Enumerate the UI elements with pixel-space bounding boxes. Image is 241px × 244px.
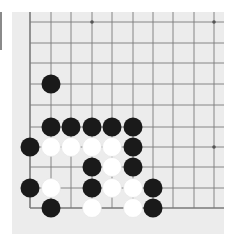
star-point xyxy=(90,20,94,24)
white-stone[interactable] xyxy=(42,138,61,157)
white-stone[interactable] xyxy=(124,199,143,218)
white-stone[interactable] xyxy=(83,138,102,157)
star-point xyxy=(212,145,216,149)
black-stone[interactable] xyxy=(42,75,61,94)
black-stone[interactable] xyxy=(42,199,61,218)
black-stone[interactable] xyxy=(103,118,122,137)
black-stone[interactable] xyxy=(83,118,102,137)
black-stone[interactable] xyxy=(124,118,143,137)
white-stone[interactable] xyxy=(42,179,61,198)
star-point xyxy=(212,20,216,24)
black-stone[interactable] xyxy=(21,138,40,157)
white-stone[interactable] xyxy=(124,179,143,198)
black-stone[interactable] xyxy=(21,179,40,198)
white-stone[interactable] xyxy=(103,179,122,198)
black-stone[interactable] xyxy=(144,199,163,218)
go-board-grid[interactable] xyxy=(0,0,241,244)
white-stone[interactable] xyxy=(83,199,102,218)
black-stone[interactable] xyxy=(144,179,163,198)
black-stone[interactable] xyxy=(83,179,102,198)
black-stone[interactable] xyxy=(124,158,143,177)
black-stone[interactable] xyxy=(83,158,102,177)
black-stone[interactable] xyxy=(62,118,81,137)
black-stone[interactable] xyxy=(124,138,143,157)
white-stone[interactable] xyxy=(103,138,122,157)
white-stone[interactable] xyxy=(62,138,81,157)
white-stone[interactable] xyxy=(103,158,122,177)
black-stone[interactable] xyxy=(42,118,61,137)
